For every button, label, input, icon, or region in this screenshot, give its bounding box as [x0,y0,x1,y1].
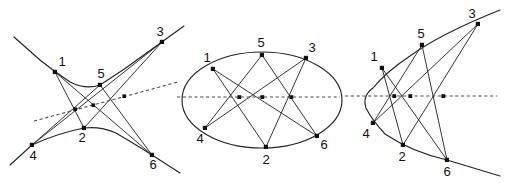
vertex-label-4: 4 [362,126,369,141]
pascal-theorem-figure: 1 2 3 4 5 6 [0,0,506,187]
vertex-label-3: 3 [156,24,163,39]
vertex-point-4 [203,126,207,130]
vertex-point-4 [30,143,34,147]
vertex-label-1: 1 [203,50,210,65]
vertex-label-5: 5 [97,66,104,81]
vertex-point-1 [211,67,215,71]
vertex-label-4: 4 [29,148,36,163]
pascal-point [91,103,95,107]
vertex-point-6 [445,158,449,162]
vertex-label-2: 2 [398,149,405,164]
pascal-point [441,94,445,98]
pascal-point [289,95,293,99]
vertex-point-5 [420,43,424,47]
pascal-point [408,94,412,98]
vertex-point-3 [160,40,164,44]
vertex-label-3: 3 [468,6,475,21]
pascal-point [122,94,126,98]
vertex-label-2: 2 [78,130,85,145]
figure-root: 1 2 3 4 5 6 [0,0,506,187]
pascal-point [73,107,77,111]
vertex-label-5: 5 [417,26,424,41]
vertex-label-6: 6 [149,157,156,172]
vertex-label-1: 1 [58,54,65,69]
vertex-label-6: 6 [443,164,450,179]
vertex-point-4 [371,121,375,125]
pascal-point [392,94,396,98]
vertex-label-3: 3 [308,40,315,55]
vertex-label-5: 5 [257,35,264,50]
vertex-label-4: 4 [196,131,203,146]
vertex-point-6 [315,134,319,138]
vertex-label-2: 2 [262,152,269,167]
pascal-point [237,95,241,99]
pascal-point [260,95,264,99]
vertex-point-2 [401,143,405,147]
vertex-point-1 [380,66,384,70]
vertex-label-1: 1 [370,49,377,64]
figure-background [0,0,506,187]
vertex-point-3 [304,56,308,60]
vertex-point-2 [264,145,268,149]
vertex-label-6: 6 [320,137,327,152]
vertex-point-5 [260,53,264,57]
vertex-point-1 [53,70,57,74]
vertex-point-5 [98,83,102,87]
vertex-point-3 [476,22,480,26]
